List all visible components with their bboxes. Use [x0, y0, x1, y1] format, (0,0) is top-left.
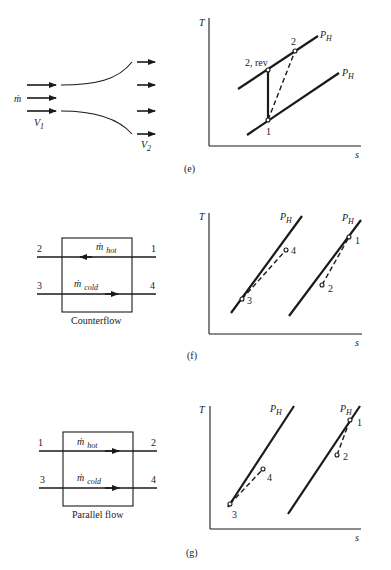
panel-g: ṁhot ṁcold 1 2 3 4 Parallel flow T s PH … [38, 403, 362, 559]
panel-f: ṁhot ṁcold 2 1 3 4 Counterflow T s PH PH… [37, 211, 362, 362]
state-point-3 [240, 297, 244, 301]
nozzle-wall-bottom [61, 111, 132, 134]
x-axis-label: s [355, 149, 359, 160]
isobar-label-cold: PH [279, 211, 293, 225]
parallel-flow-heat-exchanger: ṁhot ṁcold 1 2 3 4 Parallel flow [38, 432, 157, 520]
port-label-3: 3 [40, 474, 45, 485]
inlet-velocity-label: V1 [34, 117, 44, 131]
nozzle-wall-top [61, 62, 132, 85]
isobar-label-hot: PH [341, 212, 355, 226]
point-label-2: 2 [343, 451, 348, 462]
y-axis-label: T [199, 211, 206, 222]
point-label-1: 1 [355, 235, 360, 246]
state-point-4 [261, 467, 265, 471]
nozzle-diagram: ṁ V1 V2 [14, 62, 155, 153]
point-label-3: 3 [232, 509, 237, 520]
cold-flow-label: ṁcold [77, 472, 102, 486]
state-point-4 [284, 248, 288, 252]
port-label-1: 1 [151, 243, 156, 254]
port-label-3: 3 [37, 280, 42, 291]
exchanger-title: Parallel flow [72, 509, 124, 520]
y-axis-label: T [199, 17, 206, 28]
port-label-2: 2 [151, 437, 156, 448]
port-label-1: 1 [38, 437, 43, 448]
state-point-2rev [266, 68, 270, 72]
isobar-label-cold: PH [269, 403, 283, 417]
ts-diagram-e: T s PH PH 2 2, rev 1 [199, 17, 361, 160]
state-point-1 [347, 235, 351, 239]
state-point-1 [266, 118, 270, 122]
point-label-4: 4 [291, 245, 296, 256]
hot-flow-label: ṁhot [77, 436, 98, 450]
port-label-2: 2 [37, 243, 42, 254]
cold-flow-label: ṁcold [74, 278, 99, 292]
isobar-cold-side [228, 406, 294, 507]
point-label-2: 2 [291, 36, 296, 47]
panel-e: ṁ V1 V2 T s PH PH 2 2, rev 1 (e) [14, 17, 361, 175]
isobar-label-hot: PH [339, 403, 353, 417]
port-label-4: 4 [151, 474, 156, 485]
exchanger-box [63, 432, 133, 506]
caption-e: (e) [184, 163, 195, 175]
outlet-velocity-label: V2 [141, 139, 151, 153]
isobar-low [247, 73, 339, 135]
ts-diagram-g: T s PH PH 1 2 3 4 [199, 403, 362, 543]
state-point-1 [348, 418, 352, 422]
hot-flow-label: ṁhot [96, 241, 117, 255]
counterflow-heat-exchanger: ṁhot ṁcold 2 1 3 4 Counterflow [37, 238, 156, 326]
cold-process-line [242, 250, 286, 299]
exchanger-title: Counterflow [71, 315, 122, 326]
point-label-1: 1 [266, 126, 271, 137]
point-label-2: 2 [328, 283, 333, 294]
isobar-hot-side [289, 220, 361, 316]
y-axis-label: T [199, 404, 206, 415]
cold-process-line [230, 469, 263, 504]
point-label-2rev: 2, rev [245, 57, 268, 68]
caption-f: (f) [187, 350, 197, 362]
hot-process-line [322, 237, 349, 285]
figure-canvas: ṁ V1 V2 T s PH PH 2 2, rev 1 (e) [0, 0, 391, 570]
caption-g: (g) [186, 547, 198, 559]
ts-diagram-f: T s PH PH 1 2 3 4 [199, 211, 362, 348]
point-label-3: 3 [247, 295, 252, 306]
point-label-4: 4 [267, 472, 272, 483]
mass-flow-label: ṁ [14, 93, 21, 104]
state-point-2 [335, 453, 339, 457]
x-axis-label: s [355, 532, 359, 543]
port-label-4: 4 [150, 280, 155, 291]
x-axis-label: s [355, 337, 359, 348]
point-label-1: 1 [357, 417, 362, 428]
state-point-2 [320, 283, 324, 287]
isobar-label-high: PH [319, 29, 333, 43]
state-point-3 [228, 502, 232, 506]
isobar-label-low: PH [341, 67, 355, 81]
state-point-2 [293, 49, 297, 53]
